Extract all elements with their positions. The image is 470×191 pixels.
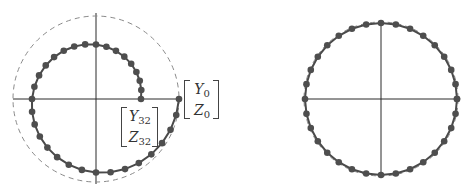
spiral-point xyxy=(31,83,38,90)
spiral-point xyxy=(121,53,128,60)
circle-point xyxy=(452,111,459,118)
circle-point xyxy=(303,81,310,88)
spiral-point xyxy=(173,112,180,119)
circle-point xyxy=(407,166,414,173)
circle-point xyxy=(393,21,400,28)
circle-point xyxy=(393,170,400,177)
circle-point xyxy=(363,21,370,28)
spiral-point xyxy=(93,41,100,48)
circle-point xyxy=(441,53,448,60)
spiral-point xyxy=(79,167,86,174)
diagram-canvas xyxy=(0,0,470,191)
circle-point xyxy=(349,25,356,32)
circle-point xyxy=(315,53,322,60)
spiral-point xyxy=(113,48,120,55)
circle-point xyxy=(315,138,322,145)
spiral-point xyxy=(36,72,43,79)
end-label-y: Y xyxy=(129,108,138,124)
spiral-point xyxy=(176,96,183,103)
start-label-y-sub: 0 xyxy=(203,88,209,99)
spiral-point xyxy=(29,96,36,103)
spiral-point xyxy=(60,47,67,54)
spiral-point xyxy=(82,41,89,48)
start-label-z: Z xyxy=(194,102,204,118)
circle-point xyxy=(452,81,459,88)
spiral-point xyxy=(103,43,110,50)
spiral-point xyxy=(37,133,44,140)
circle-point xyxy=(363,170,370,177)
spiral-point xyxy=(128,61,135,68)
circle-point xyxy=(302,96,309,103)
circle-point xyxy=(407,25,414,32)
start-label: Y0 Z0 xyxy=(189,81,215,123)
circle-point xyxy=(335,159,342,166)
end-label-z: Z xyxy=(129,129,139,145)
circle-point xyxy=(441,138,448,145)
circle-point xyxy=(454,96,461,103)
circle-point xyxy=(303,111,310,118)
spiral-point xyxy=(42,62,49,69)
circle-point xyxy=(378,20,385,27)
right-panel-circle xyxy=(302,20,461,179)
spiral-point xyxy=(136,78,143,85)
spiral-point xyxy=(138,87,145,94)
spiral-point xyxy=(138,96,145,103)
circle-point xyxy=(349,166,356,173)
spiral-point xyxy=(136,160,143,167)
circle-point xyxy=(431,149,438,156)
circle-point xyxy=(324,42,331,49)
circle-point xyxy=(307,125,314,132)
spiral-point xyxy=(31,121,38,128)
circle-point xyxy=(378,172,385,179)
circle-point xyxy=(335,33,342,40)
circle-point xyxy=(420,33,427,40)
circle-point xyxy=(307,67,314,74)
end-label-right-bracket xyxy=(152,107,158,147)
circle-point xyxy=(431,42,438,49)
circle-point xyxy=(324,149,331,156)
spiral-point xyxy=(122,166,129,173)
spiral-point xyxy=(65,161,72,168)
left-panel-spiral xyxy=(13,13,182,184)
spiral-point xyxy=(93,169,100,176)
spiral-point xyxy=(44,144,51,151)
spiral-point xyxy=(167,127,174,134)
circle-point xyxy=(448,125,455,132)
start-label-z-sub: 0 xyxy=(204,109,210,120)
spiral-point xyxy=(71,43,78,50)
spiral-points xyxy=(29,41,183,176)
end-label: Y32 Z32 xyxy=(125,108,155,150)
spiral-point xyxy=(133,69,140,76)
start-label-right-bracket xyxy=(213,80,219,119)
spiral-point xyxy=(148,151,155,158)
end-label-z-sub: 32 xyxy=(139,136,152,147)
spiral-point xyxy=(29,108,36,115)
spiral-point xyxy=(51,54,58,61)
spiral-point xyxy=(159,140,166,147)
spiral-point xyxy=(107,169,114,176)
circle-point xyxy=(420,159,427,166)
spiral-point xyxy=(54,154,61,161)
circle-point xyxy=(448,67,455,74)
end-label-y-sub: 32 xyxy=(138,115,151,126)
